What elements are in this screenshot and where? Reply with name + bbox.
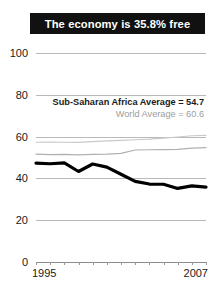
- x-tick-1998: [79, 262, 80, 265]
- series-line-1: [36, 148, 206, 155]
- x-axis-start-label: 1995: [32, 267, 56, 279]
- x-tick-2003: [149, 262, 150, 265]
- x-tick-2002: [135, 262, 136, 265]
- x-tick-1999: [93, 262, 94, 265]
- x-tick-2006: [192, 262, 193, 265]
- y-tick-label-20: 20: [2, 214, 28, 226]
- y-tick-label-40: 40: [2, 172, 28, 184]
- page-title: The economy is 35.8% free: [45, 18, 191, 30]
- series-line-0: [36, 163, 206, 189]
- plot-area: Sub-Saharan Africa Average = 54.7 World …: [36, 53, 206, 262]
- y-tick-label-100: 100: [2, 47, 28, 59]
- series-line-2: [36, 135, 206, 142]
- x-tick-2007: [206, 262, 207, 265]
- x-tick-2001: [121, 262, 122, 265]
- economic-freedom-chart: The economy is 35.8% free Sub-Saharan Af…: [0, 0, 212, 304]
- series-layer: [36, 53, 206, 262]
- y-tick-label-60: 60: [2, 131, 28, 143]
- x-tick-2004: [164, 262, 165, 265]
- chart-title-banner: The economy is 35.8% free: [30, 13, 205, 34]
- x-axis-end-label: 2007: [184, 267, 208, 279]
- x-tick-2000: [107, 262, 108, 265]
- y-tick-label-80: 80: [2, 89, 28, 101]
- x-tick-1997: [64, 262, 65, 265]
- x-tick-1995: [36, 262, 37, 265]
- x-tick-2005: [178, 262, 179, 265]
- y-tick-label-0: 0: [2, 256, 28, 268]
- x-tick-1996: [50, 262, 51, 265]
